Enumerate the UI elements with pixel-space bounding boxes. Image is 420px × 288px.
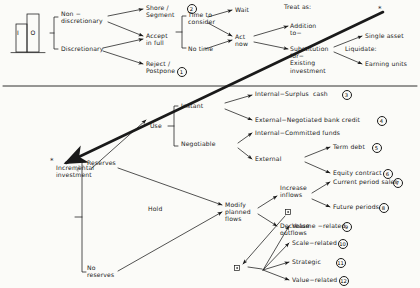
- label-share-segment-text: Shore / Segment: [146, 4, 174, 18]
- label-no-reserves: No reserves: [87, 264, 114, 278]
- label-act-now: Act now: [235, 33, 248, 47]
- label-hold: Hold: [148, 205, 162, 212]
- label-liquidate: Liquidate:: [345, 45, 377, 52]
- label-use: Use: [150, 122, 162, 129]
- label-reject-postpone: Reject / Postpone: [146, 60, 175, 74]
- asterisk-left: *: [50, 158, 54, 165]
- label-external-negotiated-bank-credit: External−Negotiated bank credit: [255, 116, 360, 123]
- circled-number-1: 1: [177, 67, 187, 77]
- label-treat-as: Treat as:: [284, 3, 311, 10]
- label-internal-committed-funds: Internal−Committed funds: [255, 129, 340, 136]
- diagram-canvas: I O Non − discretionary Discretionary Sh…: [0, 0, 420, 288]
- label-scale-related: Scale−related: [292, 239, 337, 246]
- label-current-period-sales: Current period sales: [333, 178, 398, 185]
- label-external: External: [255, 155, 281, 162]
- circled-number-11: 11: [336, 258, 346, 268]
- label-term-debt: Term debt: [333, 143, 365, 150]
- circled-number-8: 8: [379, 203, 389, 213]
- label-modify-planned-flows: Modify planned flows: [225, 201, 251, 223]
- circled-number-3: 3: [342, 90, 352, 100]
- label-volume-related: Volume −related: [292, 222, 346, 229]
- label-strategic: Strategic: [292, 258, 321, 265]
- label-single-asset: Single asset: [365, 32, 404, 39]
- io-bar-right-label: O: [27, 29, 39, 36]
- circled-number-12: 12: [339, 276, 349, 286]
- label-internal-surplus-cash: Internal−Surplus cash: [255, 90, 328, 97]
- label-negotiable: Negotiable: [181, 140, 216, 147]
- circled-number-10: 10: [338, 239, 348, 249]
- circled-number-5: 5: [372, 143, 382, 153]
- asterisk-top-right: *: [378, 6, 382, 13]
- label-equity-contract: Equity contract: [333, 169, 382, 176]
- label-earning-units: Earning units: [365, 60, 407, 67]
- label-increase-inflows: Increase inflows: [280, 184, 307, 198]
- circled-number-9: 9: [342, 222, 352, 232]
- label-value-related: Value−related: [292, 276, 337, 283]
- label-share-segment: Shore / Segment: [146, 4, 174, 18]
- label-instant: Instant: [181, 102, 203, 109]
- label-reserves: Reserves: [87, 159, 116, 166]
- circled-number-4: 4: [377, 116, 387, 126]
- label-time-to-consider: Time to consider: [188, 11, 215, 25]
- label-future-periods: Future periods: [333, 203, 379, 210]
- label-discretionary: Discretionary: [61, 45, 104, 52]
- io-bar-left-label: I: [12, 29, 24, 36]
- label-wait: Wait: [235, 6, 249, 13]
- label-substitution-for-existing-investment: Substitution for− Existing investment: [290, 45, 329, 74]
- circled-number-7: 7: [393, 178, 403, 188]
- label-accept-in-full: Accept in full: [146, 32, 168, 46]
- label-non-discretionary: Non − discretionary: [61, 10, 103, 24]
- label-no-time: No time: [188, 45, 213, 52]
- label-addition-to: Addition to−: [290, 22, 316, 36]
